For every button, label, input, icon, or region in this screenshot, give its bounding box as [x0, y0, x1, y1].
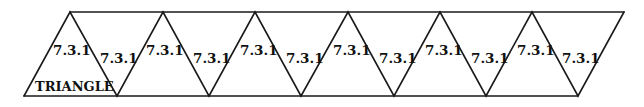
triangle-strip-diagram: 7.3.1 7.3.1 7.3.1 7.3.1 7.3.1 7.3.1 7.3.…: [0, 0, 644, 107]
diagram-title: TRIANGLE: [35, 79, 114, 94]
triangle-label: 7.3.1: [53, 42, 91, 58]
triangle-label: 7.3.1: [517, 42, 555, 58]
triangle-label: 7.3.1: [333, 42, 371, 58]
triangle-label: 7.3.1: [240, 42, 278, 58]
triangle-label: 7.3.1: [471, 50, 509, 66]
triangle-label: 7.3.1: [286, 50, 324, 66]
triangle-labels: 7.3.1 7.3.1 7.3.1 7.3.1 7.3.1 7.3.1 7.3.…: [53, 42, 600, 66]
triangle-label: 7.3.1: [379, 50, 417, 66]
triangle-label: 7.3.1: [562, 50, 600, 66]
triangle-label: 7.3.1: [146, 42, 184, 58]
triangle-label: 7.3.1: [193, 50, 231, 66]
triangle-label: 7.3.1: [425, 42, 463, 58]
triangle-label: 7.3.1: [100, 50, 138, 66]
